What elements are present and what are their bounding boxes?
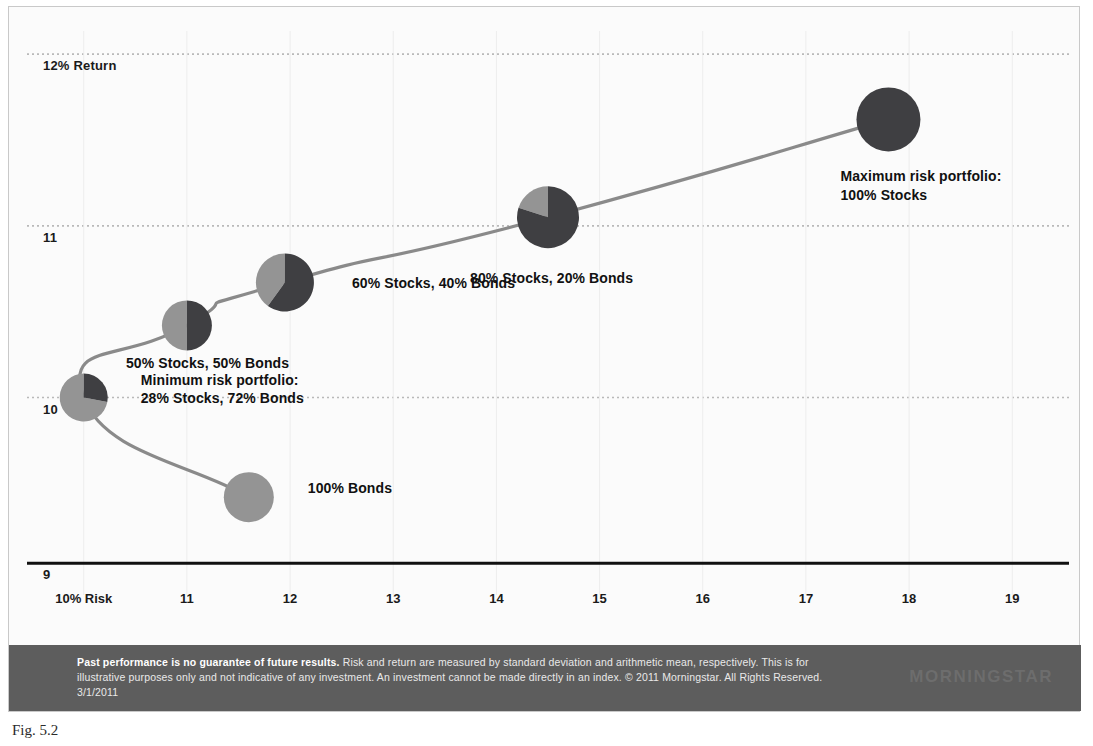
disclaimer-text: Past performance is no guarantee of futu… bbox=[77, 655, 837, 701]
x-tick-label-16: 16 bbox=[643, 591, 763, 606]
x-tick-label-17: 17 bbox=[746, 591, 866, 606]
portfolio-label-line1: Maximum risk portfolio: bbox=[840, 167, 1001, 186]
portfolio-label-stocks-80: 80% Stocks, 20% Bonds bbox=[470, 269, 633, 288]
x-tick-label-12: 12 bbox=[230, 591, 350, 606]
portfolio-label-minimum-risk: Minimum risk portfolio:28% Stocks, 72% B… bbox=[141, 371, 304, 409]
portfolio-label-line2: 28% Stocks, 72% Bonds bbox=[141, 389, 304, 408]
portfolio-marker-stocks-60[interactable] bbox=[256, 254, 314, 312]
portfolio-marker-stocks-50[interactable] bbox=[162, 300, 212, 350]
x-tick-label-15: 15 bbox=[540, 591, 660, 606]
x-tick-label-10: 10% Risk bbox=[24, 591, 144, 606]
portfolio-label-bonds-100: 100% Bonds bbox=[308, 479, 392, 498]
y-tick-label-9: 9 bbox=[43, 567, 50, 582]
efficient-frontier-figure: 12% Return1110910% Risk11121314151617181… bbox=[8, 6, 1080, 712]
portfolio-marker-maximum-risk[interactable] bbox=[856, 87, 920, 151]
x-tick-label-14: 14 bbox=[436, 591, 556, 606]
y-tick-label-10: 10 bbox=[43, 402, 58, 417]
portfolio-label-line1: Minimum risk portfolio: bbox=[141, 371, 304, 390]
x-tick-label-19: 19 bbox=[952, 591, 1072, 606]
portfolio-marker-minimum-risk[interactable] bbox=[60, 374, 108, 422]
portfolio-label-line2: 100% Stocks bbox=[840, 186, 1001, 205]
pie-slice-bonds bbox=[162, 300, 187, 350]
pie-slice-stocks bbox=[856, 87, 920, 151]
y-tick-label-11: 11 bbox=[43, 230, 57, 245]
portfolio-marker-stocks-80[interactable] bbox=[517, 186, 579, 248]
x-tick-label-13: 13 bbox=[333, 591, 453, 606]
pie-slice-stocks bbox=[187, 300, 212, 350]
portfolio-label-maximum-risk: Maximum risk portfolio:100% Stocks bbox=[840, 167, 1001, 205]
morningstar-logo: MORNINGSTAR bbox=[909, 667, 1053, 687]
portfolio-marker-bonds-100[interactable] bbox=[224, 472, 274, 522]
y-tick-label-12: 12% Return bbox=[43, 58, 117, 73]
x-tick-label-11: 11 bbox=[127, 591, 247, 606]
x-tick-label-18: 18 bbox=[849, 591, 969, 606]
portfolio-label-stocks-50: 50% Stocks, 50% Bonds bbox=[126, 354, 289, 373]
pie-slice-stocks bbox=[84, 374, 108, 402]
disclaimer-lead: Past performance is no guarantee of futu… bbox=[77, 656, 340, 668]
pie-slice-bonds bbox=[224, 472, 274, 522]
figure-caption: Fig. 5.2 bbox=[12, 722, 58, 739]
disclaimer-footer: Past performance is no guarantee of futu… bbox=[9, 645, 1081, 711]
